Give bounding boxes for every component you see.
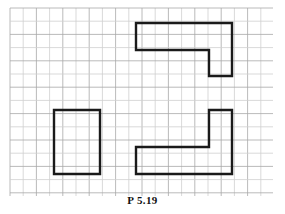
top-right-z-shape: [136, 23, 232, 76]
bottom-left-rectangle: [54, 110, 100, 174]
figure-root: P 5.19: [0, 0, 285, 214]
bottom-right-l-shape: [136, 110, 232, 174]
shapes-group: [54, 23, 232, 174]
figure-caption: P 5.19: [0, 194, 285, 206]
technical-drawing-shapes: [0, 0, 285, 214]
